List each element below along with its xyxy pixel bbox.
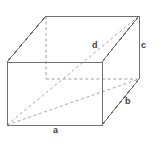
dimension-label-c: c bbox=[141, 41, 146, 50]
prism-drawing bbox=[0, 0, 163, 144]
top-face-edges bbox=[7, 16, 139, 62]
dimension-label-d: d bbox=[92, 41, 98, 50]
base-diagonal-line bbox=[7, 79, 139, 125]
front-face-edges bbox=[7, 62, 102, 125]
rectangular-prism-figure: a b c d bbox=[0, 0, 163, 144]
dimension-label-a: a bbox=[53, 126, 58, 135]
dimension-label-b: b bbox=[125, 97, 131, 106]
right-face-edges bbox=[102, 16, 139, 125]
space-diagonal-d-line bbox=[7, 16, 139, 125]
